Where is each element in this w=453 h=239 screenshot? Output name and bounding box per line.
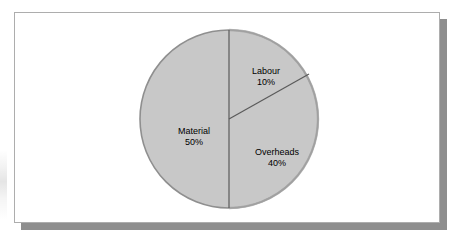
slice-label-labour-name: Labour <box>252 66 280 77</box>
slice-label-overheads-value: 40% <box>255 158 299 169</box>
slice-label-material-value: 50% <box>178 137 210 148</box>
slice-label-labour-value: 10% <box>252 77 280 88</box>
scan-artifact-left <box>0 150 7 220</box>
slice-label-overheads: Overheads 40% <box>255 147 299 169</box>
slice-label-overheads-name: Overheads <box>255 147 299 158</box>
pie-chart-graphic <box>15 13 441 224</box>
slice-label-labour: Labour 10% <box>252 66 280 88</box>
slice-label-material-name: Material <box>178 126 210 137</box>
pie-chart: Material 50% Labour 10% Overheads 40% <box>15 13 439 222</box>
figure-frame: Material 50% Labour 10% Overheads 40% <box>14 12 440 223</box>
slice-label-material: Material 50% <box>178 126 210 148</box>
